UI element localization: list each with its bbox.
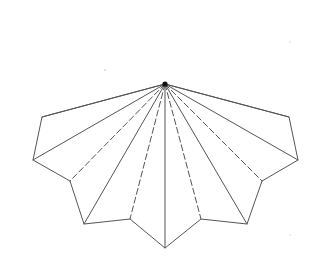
fold-line-solid-10: [165, 84, 289, 117]
apex-point: [162, 81, 167, 86]
fold-line-solid-3: [84, 84, 165, 224]
fold-line-dashed-4: [130, 84, 165, 219]
fan-net-diagram: [0, 0, 323, 258]
fold-line-solid-1: [33, 84, 165, 160]
fold-lines: [33, 84, 298, 248]
fold-line-solid-9: [165, 84, 298, 160]
fold-line-solid-0: [42, 84, 165, 117]
fold-line-dashed-6: [165, 84, 201, 219]
